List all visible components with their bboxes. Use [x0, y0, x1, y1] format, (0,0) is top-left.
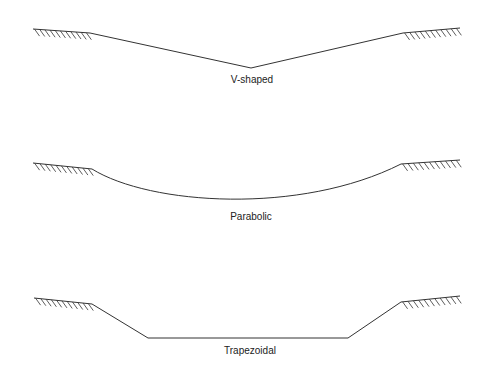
trapezoidal-right-bank-hatch-mark	[403, 302, 408, 309]
parabolic-right-bank-hatch-mark	[403, 164, 408, 171]
trapezoidal-right-bank-hatch-mark	[435, 299, 440, 306]
parabolic-right-bank-hatch-mark	[446, 161, 451, 168]
parabolic-right-bank-hatch-mark	[429, 162, 434, 169]
trapezoidal-left-bank-hatch-mark	[78, 303, 83, 310]
parabolic-right-bank-hatch-mark	[440, 161, 445, 168]
parabolic-right-bank-hatch-mark	[424, 162, 429, 169]
v-shaped-left-bank-hatch-mark	[66, 31, 71, 38]
trapezoidal-right-bank-hatch-mark	[456, 296, 461, 303]
parabolic-left-bank-hatch-mark	[83, 168, 88, 175]
trapezoidal-left-bank-hatch-mark	[67, 301, 72, 308]
v-shaped-left-bank-hatch-mark	[76, 32, 81, 39]
parabolic-right-bank-hatch-mark	[451, 161, 456, 168]
v-shaped-left-bank-hatch-mark	[50, 30, 55, 37]
v-shaped-right-bank-hatch-mark	[415, 32, 420, 39]
trapezoidal-left-bank-hatch-mark	[62, 301, 67, 308]
label-v-shaped: V-shaped	[231, 74, 273, 85]
parabolic-left-bank-hatch-mark	[56, 165, 61, 172]
trapezoidal-left-bank-hatch-mark	[72, 302, 77, 309]
v-shaped-right-bank-hatch-mark	[430, 31, 435, 38]
channel-diagram	[0, 0, 488, 373]
trapezoidal-right-bank-hatch-mark	[419, 300, 424, 307]
v-shaped-right-bank-hatch-mark	[425, 31, 430, 38]
v-shaped-right-bank-hatch-mark	[456, 28, 461, 35]
parabolic-left-bank-hatch-mark	[67, 166, 72, 173]
trapezoidal-right-bank-hatch-mark	[451, 297, 456, 304]
parabolic-right-bank-hatch-mark	[435, 162, 440, 169]
trapezoidal-right-bank-hatch-mark	[446, 297, 451, 304]
trapezoidal-right-bank-hatch-mark	[408, 301, 413, 308]
parabolic-left-bank-hatch-mark	[72, 167, 77, 174]
v-shaped-right-bank-hatch-mark	[441, 30, 446, 37]
v-shaped-right-bank-hatch-mark	[451, 29, 456, 36]
trapezoidal-left-bank-hatch-mark	[51, 300, 56, 307]
trapezoidal-left-bank-hatch-mark	[36, 298, 41, 305]
trapezoidal-right-bank-hatch-mark	[424, 300, 429, 307]
v-shaped-right-bank-hatch-mark	[410, 32, 415, 39]
trapezoidal-left-bank-hatch-mark	[57, 300, 62, 307]
parabolic-left-bank-hatch-mark	[51, 165, 56, 172]
v-shaped-right-bank-hatch-mark	[446, 29, 451, 36]
label-parabolic: Parabolic	[230, 211, 272, 222]
v-shaped-left-bank-hatch-mark	[45, 30, 50, 37]
parabolic-right-bank-hatch-mark	[413, 163, 418, 170]
v-shaped-right-bank-hatch-mark	[420, 32, 425, 39]
v-shaped-left-bank-hatch-mark	[40, 29, 45, 36]
trapezoidal-left-bank-hatch-mark	[83, 303, 88, 310]
trapezoidal-right-bank-hatch-mark	[440, 298, 445, 305]
label-trapezoidal: Trapezoidal	[224, 345, 276, 356]
parabolic-left-bank-hatch-mark	[78, 168, 83, 175]
trapezoidal-right-bank-hatch-mark	[413, 301, 418, 308]
trapezoidal-channel-profile	[92, 302, 401, 338]
parabolic-right-bank-hatch-mark	[456, 160, 461, 167]
parabolic-right-bank-hatch-mark	[419, 163, 424, 170]
parabolic-left-bank-hatch-mark	[61, 166, 66, 173]
v-shaped-right-bank-hatch-mark	[405, 33, 410, 40]
trapezoidal-left-bank-hatch-mark	[41, 299, 46, 306]
v-shaped-left-bank-hatch-mark	[60, 31, 65, 38]
trapezoidal-right-bank-hatch-mark	[429, 299, 434, 306]
v-shaped-left-bank-hatch-mark	[71, 32, 76, 39]
trapezoidal-left-bank-hatch-mark	[46, 299, 51, 306]
parabolic-right-bank-hatch-mark	[408, 164, 413, 171]
v-shaped-right-bank-hatch-mark	[436, 30, 441, 37]
v-shaped-left-bank-hatch-mark	[81, 32, 86, 39]
parabolic-channel-profile	[92, 164, 401, 199]
v-shaped-left-bank-hatch-mark	[86, 33, 91, 40]
parabolic-left-bank-hatch-mark	[40, 164, 45, 171]
parabolic-left-bank-hatch-mark	[35, 163, 40, 170]
v-shaped-channel-profile	[90, 33, 403, 68]
parabolic-left-bank-hatch-mark	[45, 164, 50, 171]
v-shaped-left-bank-hatch-mark	[35, 29, 40, 36]
v-shaped-left-bank-hatch-mark	[55, 31, 60, 38]
